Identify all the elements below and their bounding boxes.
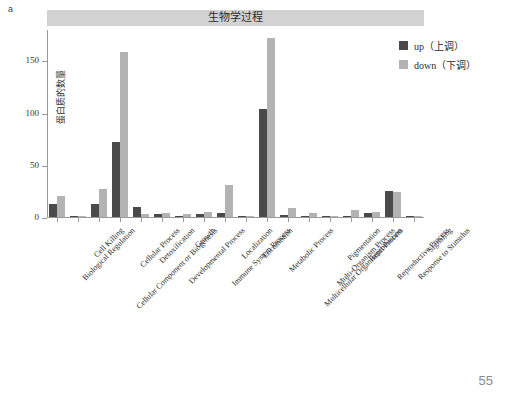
bar-up bbox=[49, 204, 57, 217]
bar-down bbox=[183, 214, 191, 217]
x-tick bbox=[57, 218, 58, 222]
x-tick bbox=[267, 218, 268, 222]
bar-down bbox=[267, 38, 275, 217]
plot-area: 蛋白质的数量 050100150 Biological RegulationCe… bbox=[47, 30, 424, 218]
chart-title-band: 生物学过程 bbox=[47, 10, 424, 26]
y-tick-150 bbox=[42, 61, 47, 62]
bar-group bbox=[322, 30, 338, 217]
bar-up bbox=[280, 215, 288, 217]
bar-group bbox=[238, 30, 254, 217]
x-tick bbox=[225, 218, 226, 222]
y-tick-100 bbox=[42, 114, 47, 115]
bar-down bbox=[99, 189, 107, 217]
bar-group bbox=[280, 30, 296, 217]
bar-up bbox=[322, 216, 330, 217]
x-tick bbox=[393, 218, 394, 222]
bar-down bbox=[309, 213, 317, 217]
bar-up bbox=[343, 216, 351, 217]
x-tick bbox=[414, 218, 415, 222]
bar-up bbox=[70, 216, 78, 217]
x-tick bbox=[120, 218, 121, 222]
bar-group bbox=[133, 30, 149, 217]
panel-letter: a bbox=[8, 4, 13, 14]
bar-up bbox=[175, 216, 183, 217]
bar-group bbox=[385, 30, 401, 217]
bar-group bbox=[112, 30, 128, 217]
page-number: 55 bbox=[479, 373, 493, 388]
bar-up bbox=[385, 191, 393, 217]
bar-group bbox=[301, 30, 317, 217]
x-tick bbox=[309, 218, 310, 222]
y-tick-label-50: 50 bbox=[19, 160, 39, 170]
bar-group bbox=[343, 30, 359, 217]
y-tick-label-100: 100 bbox=[19, 108, 39, 118]
bar-down bbox=[162, 213, 170, 217]
x-tick bbox=[330, 218, 331, 222]
bar-up bbox=[364, 213, 372, 217]
bar-down bbox=[246, 216, 254, 217]
bar-up bbox=[217, 213, 225, 217]
bar-down bbox=[204, 212, 212, 217]
bar-up bbox=[301, 216, 309, 217]
bar-group bbox=[259, 30, 275, 217]
bar-down bbox=[57, 196, 65, 217]
bar-up bbox=[406, 216, 414, 217]
bar-group bbox=[196, 30, 212, 217]
x-axis-tick-label: Metabolic Process bbox=[287, 226, 335, 274]
bar-down bbox=[330, 216, 338, 217]
bar-up bbox=[133, 207, 141, 217]
bar-group bbox=[364, 30, 380, 217]
bar-up bbox=[196, 214, 204, 217]
x-tick bbox=[204, 218, 205, 222]
bar-down bbox=[78, 216, 86, 217]
bar-up bbox=[112, 142, 120, 217]
x-tick bbox=[141, 218, 142, 222]
x-axis-line bbox=[47, 217, 424, 218]
y-tick-label-0: 0 bbox=[19, 212, 39, 222]
x-tick bbox=[162, 218, 163, 222]
x-tick bbox=[183, 218, 184, 222]
y-axis-line bbox=[47, 30, 48, 218]
bar-up bbox=[154, 214, 162, 217]
bar-down bbox=[393, 192, 401, 217]
bar-up bbox=[91, 204, 99, 217]
figure-panel: a 生物学过程 up（上调）down（下调） 蛋白质的数量 050100150 … bbox=[0, 0, 517, 400]
bar-group bbox=[175, 30, 191, 217]
bar-group bbox=[217, 30, 233, 217]
chart-title: 生物学过程 bbox=[47, 10, 424, 26]
bar-down bbox=[351, 210, 359, 217]
bar-group bbox=[406, 30, 422, 217]
bar-group bbox=[154, 30, 170, 217]
y-tick-label-150: 150 bbox=[19, 55, 39, 65]
bar-down bbox=[225, 185, 233, 217]
bar-down bbox=[141, 214, 149, 217]
bar-group bbox=[49, 30, 65, 217]
bar-up bbox=[259, 109, 267, 217]
x-tick bbox=[288, 218, 289, 222]
bar-group bbox=[70, 30, 86, 217]
bar-down bbox=[288, 208, 296, 217]
x-tick bbox=[351, 218, 352, 222]
x-tick bbox=[99, 218, 100, 222]
x-tick bbox=[246, 218, 247, 222]
y-tick-0 bbox=[42, 218, 47, 219]
x-tick bbox=[78, 218, 79, 222]
bar-down bbox=[414, 216, 422, 217]
bar-up bbox=[238, 216, 246, 217]
y-tick-50 bbox=[42, 166, 47, 167]
bar-down bbox=[372, 212, 380, 217]
bar-down bbox=[120, 52, 128, 217]
bar-group bbox=[91, 30, 107, 217]
x-tick bbox=[372, 218, 373, 222]
